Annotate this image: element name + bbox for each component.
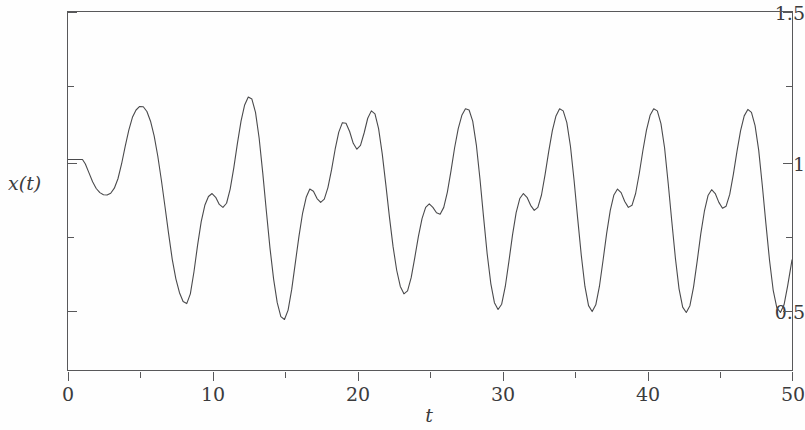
y-axis-title: x(t) <box>8 172 41 194</box>
data-line-svg <box>68 12 792 370</box>
chart-figure: 1.5 1 0.5 x(t) 0 10 20 30 40 50 t <box>0 0 805 430</box>
x-tick-10 <box>213 372 214 381</box>
x-tick-0 <box>68 372 69 381</box>
series-line-x-of-t <box>68 97 792 320</box>
x-tick-label-50: 50 <box>758 385 805 404</box>
x-tick-20 <box>358 372 359 381</box>
x-axis-title-text: t <box>425 404 435 426</box>
x-tick-label-40: 40 <box>613 385 683 404</box>
plot-area <box>67 11 793 371</box>
x-tick-label-20: 20 <box>323 385 393 404</box>
x-tick-5 <box>140 372 141 378</box>
x-tick-label-10: 10 <box>178 385 248 404</box>
x-tick-45 <box>720 372 721 378</box>
x-tick-15 <box>285 372 286 378</box>
x-tick-40 <box>648 372 649 381</box>
x-tick-50 <box>792 372 793 381</box>
x-tick-label-0: 0 <box>33 385 103 404</box>
x-tick-30 <box>503 372 504 381</box>
x-tick-35 <box>575 372 576 378</box>
x-axis-title: t <box>0 404 805 426</box>
x-tick-25 <box>430 372 431 378</box>
x-tick-label-30: 30 <box>468 385 538 404</box>
